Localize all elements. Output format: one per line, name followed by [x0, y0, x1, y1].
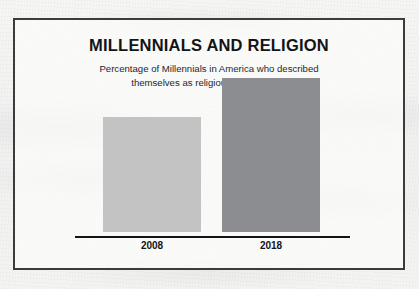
- bar-rect-2008[interactable]: [103, 117, 201, 232]
- bar-rect-2018[interactable]: [222, 78, 320, 232]
- axis-baseline: [75, 236, 350, 238]
- chart-frame: MILLENNIALS AND RELIGION Percentage of M…: [13, 18, 405, 270]
- bar-category-label-2008: 2008: [103, 240, 201, 251]
- plot-area: 31.9% 2008 42.7% 2018: [15, 20, 403, 268]
- bar-category-label-2018: 2018: [222, 240, 320, 251]
